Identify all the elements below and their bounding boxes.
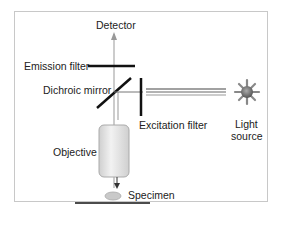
label-light-source-2: source: [231, 130, 263, 142]
label-dichroic-mirror: Dichroic mirror: [43, 84, 111, 96]
label-emission-filter: Emission filter: [24, 60, 89, 72]
label-excitation-filter: Excitation filter: [139, 119, 207, 131]
label-objective: Objective: [53, 146, 97, 158]
light-source-icon: [235, 80, 259, 104]
label-detector: Detector: [96, 19, 136, 31]
specimen-drop: [105, 192, 121, 200]
label-specimen: Specimen: [128, 189, 175, 201]
objective-lens: [99, 125, 129, 177]
label-light-source-1: Light: [235, 118, 258, 130]
down-arrow-icon: [114, 177, 120, 189]
excitation-beam: [114, 89, 226, 95]
